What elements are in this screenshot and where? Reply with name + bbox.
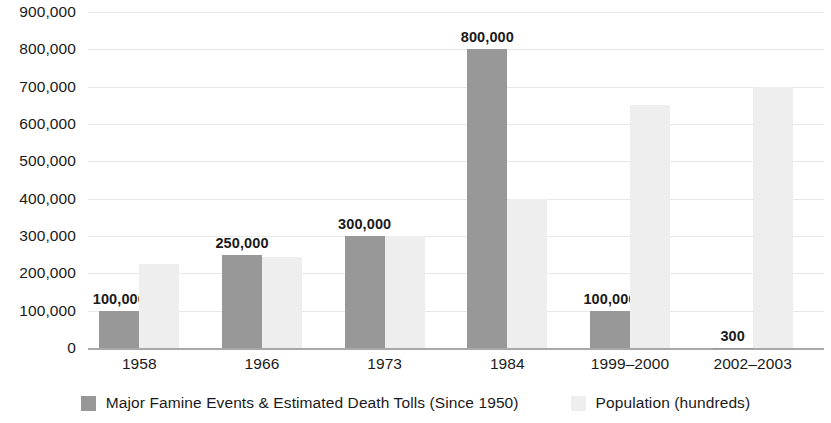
bar-group: 100,000 [590,12,670,348]
bar-population[interactable] [139,264,179,348]
x-axis-tick-label: 1958 [122,355,157,373]
bar-group: 800,000 [467,12,547,348]
legend-swatch-icon [81,396,96,411]
bar-famine-deaths[interactable] [590,311,630,348]
bar-value-label: 250,000 [215,235,268,251]
x-axis-tick-label: 1984 [490,355,525,373]
legend-item[interactable]: Major Famine Events & Estimated Death To… [81,394,519,412]
x-axis-tick-label: 2002–2003 [713,355,791,373]
famine-population-bar-chart: 0100,000200,000300,000400,000500,000600,… [0,0,831,423]
legend-item[interactable]: Population (hundreds) [571,394,751,412]
y-axis-tick-label: 0 [67,339,76,357]
y-axis-tick-label: 900,000 [19,3,76,21]
y-axis-tick-label: 200,000 [19,264,76,282]
bar-value-label: 300 [720,328,745,344]
y-axis: 0100,000200,000300,000400,000500,000600,… [0,0,88,423]
bar-famine-deaths[interactable] [99,311,139,348]
bar-population[interactable] [507,199,547,348]
bar-famine-deaths[interactable] [345,236,385,348]
bar-group: 300,000 [345,12,425,348]
bar-population[interactable] [753,87,793,348]
bar-population[interactable] [630,105,670,348]
y-axis-tick-label: 800,000 [19,40,76,58]
y-axis-tick-label: 100,000 [19,302,76,320]
y-axis-tick-label: 300,000 [19,227,76,245]
bar-value-label: 100,000 [93,291,146,307]
bar-population[interactable] [262,257,302,348]
plot-area: 100,000250,000300,000800,000100,000300 [88,12,824,348]
bar-famine-deaths[interactable] [222,255,262,348]
x-axis-tick-label: 1973 [367,355,402,373]
x-axis-line [88,348,824,350]
bar-population[interactable] [385,236,425,348]
chart-legend: Major Famine Events & Estimated Death To… [0,394,831,412]
bar-famine-deaths[interactable] [467,49,507,348]
bar-group: 100,000 [99,12,179,348]
y-axis-tick-label: 400,000 [19,190,76,208]
bar-group: 250,000 [222,12,302,348]
bar-value-label: 800,000 [461,29,514,45]
bar-group: 300 [713,12,793,348]
legend-swatch-icon [571,396,586,411]
x-axis: 19581966197319841999–20002002–2003 [88,355,824,385]
y-axis-tick-label: 600,000 [19,115,76,133]
y-axis-tick-label: 500,000 [19,152,76,170]
x-axis-tick-label: 1966 [245,355,280,373]
legend-label: Major Famine Events & Estimated Death To… [106,394,519,412]
y-axis-tick-label: 700,000 [19,78,76,96]
bar-value-label: 100,000 [583,291,636,307]
legend-label: Population (hundreds) [596,394,751,412]
bar-value-label: 300,000 [338,216,391,232]
x-axis-tick-label: 1999–2000 [591,355,669,373]
